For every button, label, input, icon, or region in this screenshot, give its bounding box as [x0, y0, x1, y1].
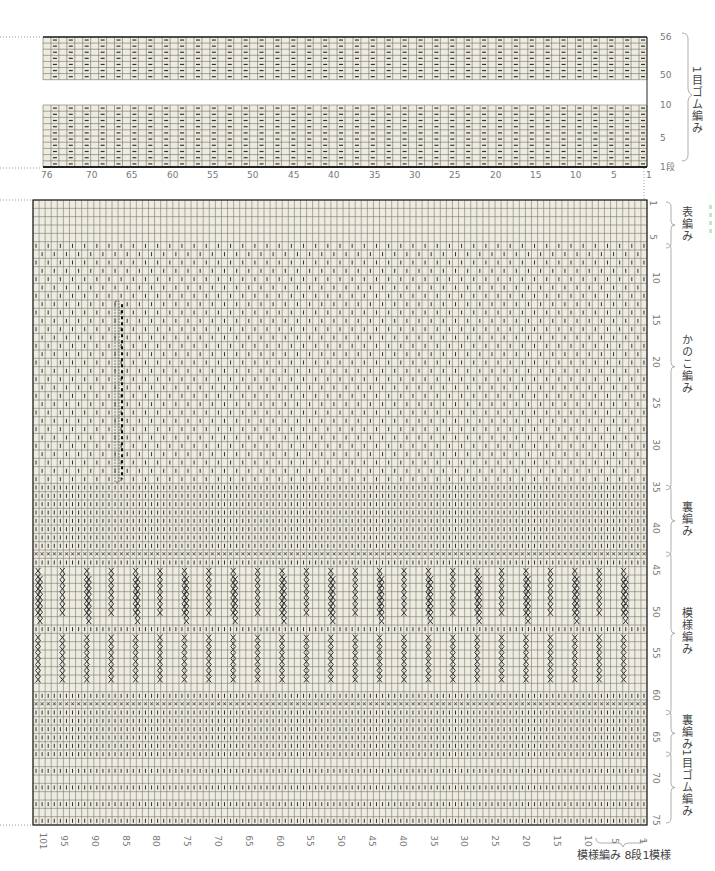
- main-col-label: 25: [490, 835, 500, 846]
- top-col-label: 65: [126, 170, 137, 180]
- svg-text:✕: ✕: [575, 550, 580, 557]
- svg-text:✕: ✕: [556, 550, 561, 557]
- svg-text:✕: ✕: [404, 700, 409, 707]
- svg-text:✕: ✕: [155, 550, 160, 557]
- main-col-label: 85: [120, 835, 130, 846]
- svg-text:✕: ✕: [410, 550, 415, 557]
- svg-text:✕: ✕: [46, 550, 51, 557]
- svg-text:✕: ✕: [362, 700, 367, 707]
- svg-text:✕: ✕: [496, 700, 501, 707]
- top-col-label: 45: [288, 170, 299, 180]
- svg-text:✕: ✕: [283, 550, 288, 557]
- svg-text:✕: ✕: [70, 550, 75, 557]
- svg-text:✕: ✕: [350, 700, 355, 707]
- svg-text:✕: ✕: [192, 550, 197, 557]
- svg-text:✕: ✕: [538, 550, 543, 557]
- svg-text:✕: ✕: [265, 550, 270, 557]
- top-col-label: 55: [207, 170, 218, 180]
- main-row-label: 65: [651, 731, 661, 742]
- svg-text:✕: ✕: [544, 700, 549, 707]
- svg-text:✕: ✕: [502, 550, 507, 557]
- main-col-label: 1: [638, 838, 648, 844]
- top-col-label: 25: [449, 170, 460, 180]
- knitting-chart-page: ✕✕✕✕✕✕✕✕✕✕✕✕✕✕✕✕✕✕✕✕✕✕✕✕✕✕✕✕✕✕✕✕✕✕✕✕✕✕✕✕…: [0, 0, 715, 871]
- svg-text:✕: ✕: [599, 550, 604, 557]
- chart-canvas: ✕✕✕✕✕✕✕✕✕✕✕✕✕✕✕✕✕✕✕✕✕✕✕✕✕✕✕✕✕✕✕✕✕✕✕✕✕✕✕✕…: [0, 0, 715, 871]
- svg-text:✕: ✕: [587, 700, 592, 707]
- svg-text:✕: ✕: [186, 550, 191, 557]
- svg-text:✕: ✕: [271, 550, 276, 557]
- svg-text:✕: ✕: [70, 700, 75, 707]
- svg-text:✕: ✕: [82, 550, 87, 557]
- svg-text:✕: ✕: [605, 550, 610, 557]
- svg-text:✕: ✕: [471, 700, 476, 707]
- svg-text:✕: ✕: [106, 550, 111, 557]
- svg-text:✕: ✕: [40, 550, 45, 557]
- svg-text:✕: ✕: [119, 550, 124, 557]
- top-row-label-1: 1段: [660, 160, 675, 173]
- svg-text:✕: ✕: [532, 700, 537, 707]
- svg-text:✕: ✕: [465, 700, 470, 707]
- svg-text:✕: ✕: [319, 550, 324, 557]
- svg-text:✕: ✕: [337, 700, 342, 707]
- svg-text:✕: ✕: [234, 700, 239, 707]
- svg-text:✕: ✕: [477, 700, 482, 707]
- svg-text:✕: ✕: [88, 550, 93, 557]
- svg-text:✕: ✕: [113, 700, 118, 707]
- svg-text:✕: ✕: [100, 550, 105, 557]
- svg-text:✕: ✕: [198, 700, 203, 707]
- svg-text:✕: ✕: [88, 700, 93, 707]
- svg-text:✕: ✕: [380, 550, 385, 557]
- svg-text:✕: ✕: [143, 550, 148, 557]
- svg-text:✕: ✕: [173, 550, 178, 557]
- main-row-label: 5: [648, 234, 658, 240]
- svg-text:✕: ✕: [398, 700, 403, 707]
- svg-text:✕: ✕: [40, 700, 45, 707]
- svg-text:✕: ✕: [417, 550, 422, 557]
- main-col-label: 60: [274, 835, 284, 846]
- svg-text:✕: ✕: [386, 550, 391, 557]
- main-row-label: 45: [651, 564, 661, 575]
- svg-text:✕: ✕: [173, 700, 178, 707]
- svg-text:✕: ✕: [143, 700, 148, 707]
- svg-text:✕: ✕: [441, 700, 446, 707]
- svg-text:✕: ✕: [520, 700, 525, 707]
- svg-text:✕: ✕: [435, 700, 440, 707]
- svg-text:✕: ✕: [331, 550, 336, 557]
- svg-text:✕: ✕: [404, 550, 409, 557]
- top-col-label: 1: [646, 170, 652, 180]
- svg-text:✕: ✕: [252, 700, 257, 707]
- svg-text:✕: ✕: [58, 700, 63, 707]
- main-row-label: 60: [651, 689, 661, 700]
- svg-text:✕: ✕: [356, 550, 361, 557]
- svg-text:✕: ✕: [562, 700, 567, 707]
- svg-text:✕: ✕: [374, 700, 379, 707]
- svg-text:✕: ✕: [423, 700, 428, 707]
- top-col-label: 10: [570, 170, 581, 180]
- svg-text:✕: ✕: [623, 550, 628, 557]
- svg-text:✕: ✕: [556, 700, 561, 707]
- main-col-label: 40: [398, 835, 408, 846]
- svg-text:✕: ✕: [94, 700, 99, 707]
- svg-text:✕: ✕: [52, 700, 57, 707]
- svg-text:✕: ✕: [380, 700, 385, 707]
- svg-text:✕: ✕: [216, 550, 221, 557]
- svg-text:✕: ✕: [465, 550, 470, 557]
- svg-text:✕: ✕: [344, 700, 349, 707]
- top-row-label-10: 10: [660, 100, 671, 110]
- svg-text:✕: ✕: [301, 550, 306, 557]
- svg-text:✕: ✕: [119, 700, 124, 707]
- svg-text:✕: ✕: [641, 550, 646, 557]
- svg-text:✕: ✕: [258, 550, 263, 557]
- svg-text:✕: ✕: [228, 700, 233, 707]
- svg-text:✕: ✕: [125, 550, 130, 557]
- svg-text:✕: ✕: [265, 700, 270, 707]
- svg-text:✕: ✕: [593, 550, 598, 557]
- svg-text:✕: ✕: [125, 700, 130, 707]
- main-row-label: 20: [651, 356, 661, 367]
- svg-text:✕: ✕: [167, 700, 172, 707]
- svg-text:✕: ✕: [568, 700, 573, 707]
- svg-text:✕: ✕: [368, 700, 373, 707]
- svg-text:✕: ✕: [313, 700, 318, 707]
- svg-text:✕: ✕: [550, 550, 555, 557]
